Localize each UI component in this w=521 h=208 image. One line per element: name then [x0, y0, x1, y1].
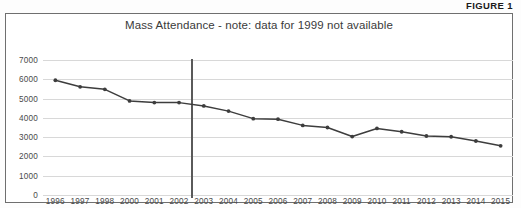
y-axis-tick-label: 6000 — [19, 75, 38, 84]
plot-area: 01000200030004000500060007000 1996199719… — [43, 60, 513, 195]
x-axis-tick-label: 2010 — [367, 197, 386, 206]
x-axis-tick-label: 2002 — [170, 197, 189, 206]
y-axis-tick-label: 5000 — [19, 94, 38, 103]
x-axis-tick-label: 2009 — [343, 197, 362, 206]
y-axis-tick-label: 0 — [33, 191, 38, 200]
data-point[interactable] — [350, 135, 354, 139]
figure-container: FIGURE 1 Mass Attendance - note: data fo… — [0, 0, 521, 208]
data-point[interactable] — [227, 109, 231, 113]
y-axis-tick-label: 1000 — [19, 171, 38, 180]
x-axis-tick-label: 2008 — [318, 197, 337, 206]
x-axis-tick-label: 2011 — [392, 197, 410, 206]
data-point[interactable] — [128, 99, 132, 103]
gridline — [43, 195, 513, 196]
data-point[interactable] — [202, 104, 206, 108]
x-axis-tick-label: 2014 — [466, 197, 485, 206]
x-axis-tick-label: 2001 — [145, 197, 164, 206]
line-series — [43, 60, 513, 195]
x-axis-tick-label: 1997 — [71, 197, 90, 206]
y-axis-tick-label: 3000 — [19, 133, 38, 142]
x-axis-tick-label: 2007 — [293, 197, 312, 206]
data-point[interactable] — [375, 127, 379, 131]
data-point[interactable] — [103, 87, 107, 91]
data-point[interactable] — [425, 134, 429, 138]
series-line — [55, 80, 500, 146]
x-axis-tick-label: 2006 — [268, 197, 287, 206]
x-axis-tick-label: 2015 — [491, 197, 510, 206]
data-point[interactable] — [53, 78, 57, 82]
data-point[interactable] — [326, 126, 330, 130]
chart-frame: Mass Attendance - note: data for 1999 no… — [5, 13, 513, 203]
x-axis-tick-label: 2004 — [219, 197, 238, 206]
data-point[interactable] — [177, 101, 181, 105]
data-point[interactable] — [276, 117, 280, 121]
data-point[interactable] — [474, 139, 478, 143]
y-axis-tick-label: 7000 — [19, 56, 38, 65]
x-axis-tick-label: 1998 — [95, 197, 114, 206]
x-axis-tick-label: 2000 — [120, 197, 139, 206]
data-point[interactable] — [152, 101, 156, 105]
x-axis-tick-label: 2003 — [194, 197, 213, 206]
y-axis-tick-label: 4000 — [19, 113, 38, 122]
data-point[interactable] — [499, 144, 503, 148]
y-axis-tick-label: 2000 — [19, 152, 38, 161]
x-axis-tick-label: 2012 — [417, 197, 436, 206]
data-point[interactable] — [301, 123, 305, 127]
data-point[interactable] — [251, 117, 255, 121]
data-point[interactable] — [400, 130, 404, 134]
x-axis-tick-label: 1996 — [46, 197, 65, 206]
chart-title: Mass Attendance - note: data for 1999 no… — [6, 19, 512, 31]
figure-caption: FIGURE 1 — [466, 0, 513, 12]
x-axis-tick-label: 2005 — [244, 197, 263, 206]
data-point[interactable] — [449, 135, 453, 139]
x-axis-tick-label: 2013 — [442, 197, 461, 206]
data-point[interactable] — [78, 85, 82, 89]
